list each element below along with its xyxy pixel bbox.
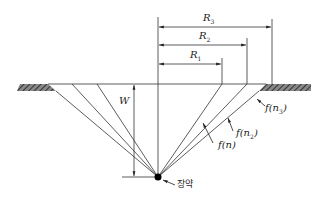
crater-line-right-2	[158, 84, 247, 177]
charge-leader	[163, 180, 175, 185]
charge-point	[155, 174, 162, 181]
label-r3: R3	[203, 13, 214, 25]
f-n-leader	[203, 123, 213, 143]
crater-line-left-3	[56, 91, 158, 177]
ground-hatch-left	[17, 84, 56, 91]
label-f-n: f(n)	[218, 140, 236, 150]
label-r2: R2	[199, 31, 210, 43]
label-w: W	[119, 96, 129, 106]
crater-line-left-2	[72, 84, 158, 177]
label-f-n2: f(n2)	[236, 128, 258, 140]
label-f-n3: f(n3)	[265, 103, 287, 115]
crater-diagram	[0, 0, 325, 201]
label-r1: R1	[190, 50, 201, 62]
ground-hatch-right	[259, 84, 311, 91]
label-charge: 장약	[177, 180, 193, 189]
f-n3-leader	[257, 99, 265, 106]
f-n2-leader	[228, 118, 233, 131]
